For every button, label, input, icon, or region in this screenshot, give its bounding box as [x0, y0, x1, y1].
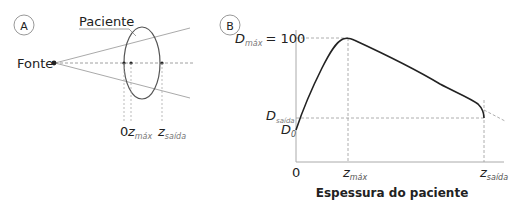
panel-b-badge: B: [226, 20, 234, 33]
panel-a-badge: A: [20, 20, 28, 33]
zmax-label: zmáx: [342, 165, 368, 182]
patient-label: Paciente: [79, 14, 134, 29]
source-label: Fonte: [17, 56, 53, 71]
x-axis-title: Espessura do paciente: [316, 186, 469, 200]
panel-b: B Dmáx= 100 Dsaída D0 0 zmáx zsaída Espe…: [220, 15, 508, 200]
extrapolation-guide: [484, 110, 505, 121]
beam-upper-edge: [55, 28, 190, 63]
x-zero-label: 0: [292, 165, 300, 180]
panel-a: A Paciente Fonte 0 zmáx zsaída: [14, 14, 195, 141]
label-zmax: zmáx: [127, 124, 153, 141]
dmax-label: Dmáx= 100: [235, 31, 305, 48]
depth-dose-curve: [296, 38, 484, 130]
label-zsaida: zsaída: [157, 124, 186, 141]
diagram-canvas: A Paciente Fonte 0 zmáx zsaída B: [0, 0, 520, 205]
zsaida-label: zsaída: [479, 165, 508, 182]
beam-lower-edge: [55, 63, 190, 98]
